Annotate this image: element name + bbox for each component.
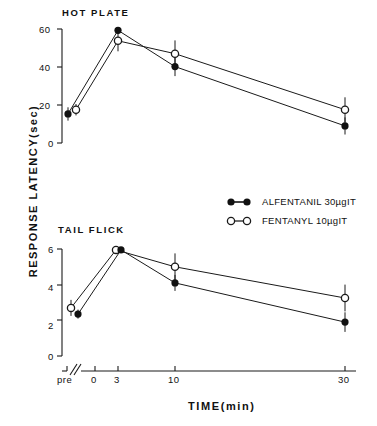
xtick-10: 10 <box>168 374 180 385</box>
xtick-pre: pre <box>57 374 72 385</box>
tail-flick-plot <box>0 0 377 426</box>
xtick-0: 0 <box>91 374 97 385</box>
figure-container: RESPONSE LATENCY(sec) HOT PLATE 60 40 20… <box>0 0 377 426</box>
x-axis-title: TIME(min) <box>188 400 256 412</box>
xtick-30: 30 <box>338 374 350 385</box>
xtick-3: 3 <box>114 374 120 385</box>
